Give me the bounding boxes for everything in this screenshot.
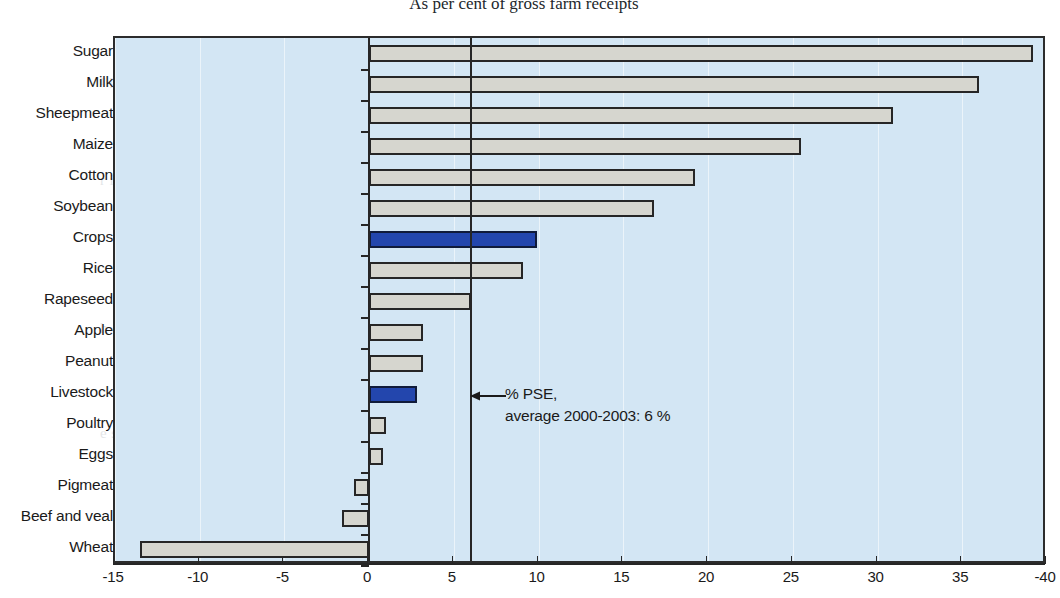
y-axis-label-milk: Milk — [0, 73, 113, 91]
x-axis-tick — [1045, 556, 1046, 564]
bar-eggs — [369, 448, 383, 465]
x-axis-tick-label: -40 — [1015, 568, 1060, 585]
x-axis-tick-label: 5 — [422, 568, 482, 585]
y-axis-label-wheat: Wheat — [0, 538, 113, 556]
x-axis-tick-label: -5 — [252, 568, 312, 585]
y-axis-label-crops: Crops — [0, 228, 113, 246]
x-axis-tick-label: 30 — [846, 568, 906, 585]
x-axis-tick-label: 0 — [337, 568, 397, 585]
y-axis-label-rice: Rice — [0, 259, 113, 277]
pse-annotation-line1: % PSE, — [505, 383, 670, 405]
x-axis-tick-label: -10 — [168, 568, 228, 585]
y-axis-label-soybean: Soybean — [0, 197, 113, 215]
chart-title: As per cent of gross farm receipts — [0, 0, 1048, 14]
gridline-vertical — [115, 38, 116, 561]
annotation-arrow-icon — [470, 390, 506, 402]
bar-poultry — [369, 417, 386, 434]
bar-rice — [369, 262, 523, 279]
bar-apple — [369, 324, 423, 341]
bar-pigmeat — [354, 479, 369, 496]
y-axis-label-peanut: Peanut — [0, 352, 113, 370]
zero-axis-line — [368, 38, 370, 561]
y-axis-label-rapeseed: Rapeseed — [0, 290, 113, 308]
bar-beef-and-veal — [342, 510, 369, 527]
bar-sheepmeat — [369, 107, 893, 124]
bar-soybean — [369, 200, 654, 217]
x-axis-tick-label: 35 — [930, 568, 990, 585]
gridline-vertical — [200, 38, 201, 561]
bar-peanut — [369, 355, 423, 372]
gridline-vertical — [1047, 38, 1048, 561]
x-axis-tick-label: -15 — [83, 568, 143, 585]
bar-rapeseed — [369, 293, 471, 310]
bar-maize — [369, 138, 801, 155]
x-axis-tick-label: 10 — [507, 568, 567, 585]
y-axis-label-livestock: Livestock — [0, 383, 113, 401]
bar-crops — [369, 231, 537, 248]
x-axis-tick-label: 20 — [676, 568, 736, 585]
x-axis-line — [113, 563, 1045, 565]
gridline-vertical — [284, 38, 285, 561]
y-axis-label-eggs: Eggs — [0, 445, 113, 463]
pse-annotation: % PSE, average 2000-2003: 6 % — [505, 383, 670, 427]
y-axis-label-cotton: Cotton — [0, 166, 113, 184]
y-axis-label-sheepmeat: Sheepmeat — [0, 104, 113, 122]
y-axis-label-apple: Apple — [0, 321, 113, 339]
x-axis-tick-label: 25 — [761, 568, 821, 585]
x-axis-tick-label: 15 — [591, 568, 651, 585]
bar-milk — [369, 76, 979, 93]
gridline-vertical — [962, 38, 963, 561]
category-tick — [361, 565, 369, 567]
plot-area — [113, 36, 1045, 563]
y-axis-label-poultry: Poultry — [0, 414, 113, 432]
bar-livestock — [369, 386, 416, 403]
bar-sugar — [369, 45, 1033, 62]
plot-inner — [115, 38, 1043, 561]
y-axis-label-sugar: Sugar — [0, 42, 113, 60]
y-axis-label-beef-and-veal: Beef and veal — [0, 507, 113, 525]
y-axis-label-pigmeat: Pigmeat — [0, 476, 113, 494]
pse-reference-line — [470, 38, 472, 561]
pse-annotation-line2: average 2000-2003: 6 % — [505, 405, 670, 427]
bar-cotton — [369, 169, 694, 186]
bar-wheat — [140, 541, 369, 558]
y-axis-label-maize: Maize — [0, 135, 113, 153]
